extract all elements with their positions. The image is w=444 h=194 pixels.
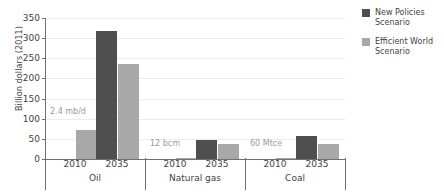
- group-separator: [45, 158, 46, 190]
- gridline: [45, 99, 345, 100]
- y-axis-line: [45, 18, 46, 159]
- legend-item-efficient-world[interactable]: Efficient World Scenario: [362, 37, 442, 57]
- y-tick-label: 200: [23, 74, 40, 83]
- legend-label: Efficient World Scenario: [375, 37, 442, 57]
- y-tick-label: 100: [23, 114, 40, 123]
- legend-swatch-icon: [362, 9, 370, 17]
- bar-chart: Billion dollars (2011) 05010015020025030…: [0, 0, 444, 194]
- group-label-coal: Coal: [285, 173, 305, 183]
- y-axis-title: Billion dollars (2011): [15, 9, 24, 129]
- group-separator: [245, 158, 246, 190]
- x-tick-label-natural-gas-2035: 2035: [206, 159, 229, 169]
- legend-item-new-policies[interactable]: New Policies Scenario: [362, 8, 442, 28]
- y-tick-label: 300: [23, 34, 40, 43]
- gridline: [45, 78, 345, 79]
- x-tick-label-oil-2010: 2010: [64, 159, 87, 169]
- x-tick-label-natural-gas-2010: 2010: [164, 159, 187, 169]
- annotation-coal: 60 Mtce: [250, 140, 282, 148]
- x-tick-label-coal-2010: 2010: [264, 159, 287, 169]
- y-tick-label: 50: [29, 134, 40, 143]
- plot-area: 050100150200250300350 2.4 mb/d12 bcm60 M…: [45, 18, 345, 159]
- y-tick-label: 250: [23, 54, 40, 63]
- gridline: [45, 58, 345, 59]
- group-separator: [345, 158, 346, 190]
- y-tick-label: 0: [34, 155, 40, 164]
- bar-oil-2035-ews: [118, 64, 139, 159]
- legend-swatch-icon: [362, 38, 370, 46]
- bar-coal-2035-nps: [296, 136, 317, 159]
- group-separator: [145, 158, 146, 190]
- bar-coal-2035-ews: [318, 144, 339, 159]
- bar-oil-2035-nps: [96, 31, 117, 159]
- annotation-natural-gas: 12 bcm: [150, 140, 180, 148]
- x-tick-label-coal-2035: 2035: [306, 159, 329, 169]
- gridline: [45, 18, 345, 19]
- legend-label: New Policies Scenario: [375, 8, 442, 28]
- bar-natural-gas-2035-ews: [218, 144, 239, 159]
- x-tick-label-oil-2035: 2035: [106, 159, 129, 169]
- bar-natural-gas-2035-nps: [196, 140, 217, 159]
- y-tick-label: 350: [23, 14, 40, 23]
- category-axis: 20102035Oil20102035Natural gas20102035Co…: [45, 159, 345, 194]
- gridline: [45, 119, 345, 120]
- group-label-natural-gas: Natural gas: [169, 173, 221, 183]
- annotation-oil: 2.4 mb/d: [50, 108, 86, 116]
- gridline: [45, 38, 345, 39]
- legend: New Policies Scenario Efficient World Sc…: [362, 8, 442, 66]
- bar-oil-2010-ews: [76, 130, 97, 159]
- y-tick-label: 150: [23, 94, 40, 103]
- group-label-oil: Oil: [89, 173, 101, 183]
